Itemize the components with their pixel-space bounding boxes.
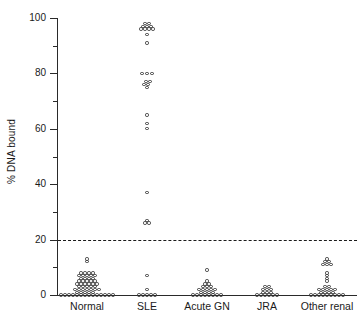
data-point <box>146 83 149 86</box>
data-point <box>197 288 200 291</box>
data-point <box>91 271 94 274</box>
dna-binding-scatter-figure: % DNA bound 020406080100 NormalSLEAcute … <box>0 0 363 324</box>
data-point <box>201 288 204 291</box>
data-point <box>317 288 320 291</box>
data-point <box>325 263 328 266</box>
data-point <box>211 291 214 294</box>
data-point <box>77 288 80 291</box>
data-point <box>150 72 153 75</box>
data-point <box>145 219 148 222</box>
y-tick-label: 80 <box>0 68 46 78</box>
data-point <box>143 22 146 25</box>
data-point <box>145 113 148 116</box>
data-point <box>87 271 90 274</box>
y-axis-label-container: % DNA bound <box>0 0 22 324</box>
data-point <box>321 263 324 266</box>
data-point <box>207 291 210 294</box>
data-point <box>329 263 332 266</box>
data-point <box>265 288 268 291</box>
data-point <box>71 293 74 296</box>
data-point <box>95 293 98 296</box>
data-point <box>261 291 264 294</box>
data-point <box>63 293 66 296</box>
data-point <box>137 293 140 296</box>
data-point <box>148 80 151 83</box>
data-point <box>149 293 152 296</box>
data-point <box>145 33 148 36</box>
y-tick-label: 40 <box>0 179 46 189</box>
x-tick-label-normal: Normal <box>70 300 104 312</box>
data-point <box>103 293 106 296</box>
data-point <box>140 72 143 75</box>
data-point <box>83 271 86 274</box>
data-point <box>79 291 82 294</box>
data-point <box>215 293 218 296</box>
data-point <box>87 277 90 280</box>
data-point <box>331 291 334 294</box>
data-point <box>269 288 272 291</box>
data-point <box>337 293 340 296</box>
data-point <box>73 288 76 291</box>
data-point <box>275 293 278 296</box>
data-point <box>209 288 212 291</box>
data-point <box>87 291 90 294</box>
data-point <box>309 293 312 296</box>
data-point <box>141 25 144 28</box>
data-point <box>67 293 70 296</box>
y-tick-major <box>50 73 57 74</box>
data-point <box>321 288 324 291</box>
data-point <box>325 257 328 260</box>
y-tick-label: 100 <box>0 13 46 23</box>
data-point <box>75 291 78 294</box>
data-point <box>145 72 148 75</box>
data-point <box>91 291 94 294</box>
data-point <box>203 291 206 294</box>
x-tick-label-jra: JRA <box>257 300 277 312</box>
data-point <box>83 291 86 294</box>
data-point <box>97 288 100 291</box>
data-point <box>59 293 62 296</box>
y-axis-label: % DNA bound <box>6 92 17 212</box>
data-point <box>219 293 222 296</box>
data-point <box>325 288 328 291</box>
x-tick-label-other-renal: Other renal <box>301 300 354 312</box>
data-point <box>329 288 332 291</box>
y-tick-label: 20 <box>0 235 46 245</box>
data-point <box>85 257 88 260</box>
data-point <box>153 293 156 296</box>
data-point <box>145 127 148 130</box>
plot-area <box>57 18 357 295</box>
data-point <box>313 293 316 296</box>
data-point <box>205 268 208 271</box>
data-point <box>213 288 216 291</box>
y-tick-major <box>50 18 57 19</box>
y-tick-major <box>50 129 57 130</box>
data-point <box>319 291 322 294</box>
y-tick-major <box>50 295 57 296</box>
x-tick-label-sle: SLE <box>137 300 157 312</box>
data-point <box>323 291 326 294</box>
data-point <box>205 279 208 282</box>
data-point <box>205 288 208 291</box>
data-point <box>107 293 110 296</box>
data-point <box>99 293 102 296</box>
data-point <box>83 277 86 280</box>
x-tick-label-acute-gn: Acute GN <box>184 300 230 312</box>
data-point <box>333 288 336 291</box>
data-point <box>199 291 202 294</box>
data-point <box>265 291 268 294</box>
data-point <box>141 293 144 296</box>
data-point <box>142 83 145 86</box>
data-point <box>147 22 150 25</box>
data-point <box>255 293 258 296</box>
data-point <box>145 86 148 89</box>
data-point <box>93 288 96 291</box>
data-point <box>91 277 94 280</box>
data-point <box>85 288 88 291</box>
data-point <box>191 293 194 296</box>
y-tick-major <box>50 240 57 241</box>
data-point <box>145 293 148 296</box>
y-tick-major <box>50 184 57 185</box>
data-point <box>145 25 148 28</box>
y-tick-label: 0 <box>0 290 46 300</box>
